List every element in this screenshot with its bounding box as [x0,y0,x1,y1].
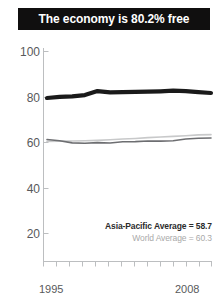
series-line-country-score [47,91,211,98]
x-axis-ticks [44,262,212,267]
chart-page: The economy is 80.2% free 100 80 60 40 2… [0,0,218,305]
x-axis-tick-1995: 1995 [39,284,63,295]
series-line-world-average [47,135,211,142]
plot-canvas [0,36,218,284]
page-title: The economy is 80.2% free [39,13,190,25]
x-axis-tick-2008: 2008 [175,284,199,295]
y-axis-ticks [44,52,49,234]
chart-area: 100 80 60 40 20 [0,36,218,284]
legend-label-asia-pacific-average: Asia-Pacific Average = 58.7 [40,220,212,232]
title-banner: The economy is 80.2% free [18,8,210,30]
chart-legend: Asia-Pacific Average = 58.7 World Averag… [40,220,212,244]
legend-label-world-average: World Average = 60.3 [40,232,212,244]
